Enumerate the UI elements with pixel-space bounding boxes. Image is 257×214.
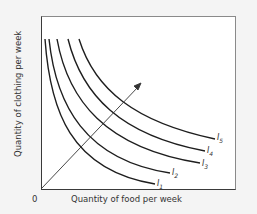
x-axis-label: Quantity of food per week	[71, 194, 182, 204]
curve-i4	[68, 39, 205, 151]
origin-label: 0	[32, 194, 37, 204]
label-i4: I4	[207, 146, 213, 157]
label-i3: I3	[202, 159, 208, 170]
curve-i2	[49, 39, 170, 173]
curve-i5	[79, 39, 215, 139]
indifference-curves	[0, 0, 257, 214]
label-i2: I2	[172, 168, 178, 179]
utility-arrow	[42, 83, 141, 188]
label-i5: I5	[217, 133, 223, 144]
label-i1: I1	[157, 179, 163, 190]
y-axis-label: Quantity of clothing per week	[13, 37, 23, 157]
